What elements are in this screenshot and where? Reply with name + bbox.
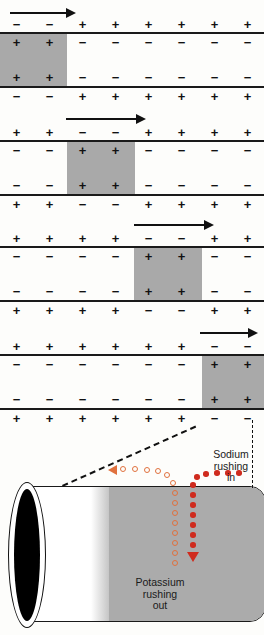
charge-row-outer-bottom-1: −−++++++ bbox=[0, 90, 264, 103]
arrow-shaft bbox=[200, 332, 249, 334]
charge-row-inner-bottom-1: ++−−−−−− bbox=[0, 71, 264, 84]
potassium-rushing-out-label: Potassium rushing out bbox=[118, 577, 202, 612]
charge-sign: + bbox=[66, 232, 99, 245]
potassium-arrow-head bbox=[108, 465, 117, 475]
propagation-arrow-3 bbox=[134, 218, 214, 232]
charge-sign: − bbox=[99, 198, 132, 211]
charge-sign: − bbox=[33, 358, 66, 371]
charge-sign: + bbox=[231, 358, 264, 371]
charge-row-inner-top-2: −−++−−−− bbox=[0, 144, 264, 157]
charge-sign: + bbox=[66, 304, 99, 317]
charge-sign: − bbox=[198, 340, 231, 353]
charge-sign: − bbox=[231, 340, 264, 353]
charge-sign: + bbox=[165, 340, 198, 353]
charge-sign: − bbox=[198, 179, 231, 192]
charge-sign: − bbox=[231, 179, 264, 192]
membrane-2: ++−−++++ −−++−−−− −−++−−−− ++−−++++ bbox=[0, 140, 264, 196]
charge-sign: + bbox=[231, 393, 264, 406]
charge-sign: + bbox=[66, 18, 99, 31]
charge-sign: − bbox=[0, 179, 33, 192]
charge-sign: − bbox=[0, 144, 33, 157]
charge-sign: − bbox=[99, 71, 132, 84]
potassium-ion bbox=[172, 490, 178, 496]
charge-row-outer-bottom-3: ++++−−++ bbox=[0, 304, 264, 317]
sodium-ion bbox=[190, 512, 196, 518]
charge-sign: − bbox=[198, 285, 231, 298]
arrow-shaft bbox=[134, 224, 205, 226]
charge-sign: − bbox=[66, 250, 99, 263]
charge-sign: + bbox=[66, 340, 99, 353]
charge-sign: − bbox=[165, 36, 198, 49]
potassium-ion bbox=[172, 510, 178, 516]
charge-sign: − bbox=[132, 36, 165, 49]
charge-sign: − bbox=[231, 285, 264, 298]
charge-sign: + bbox=[198, 393, 231, 406]
sodium-ion bbox=[190, 522, 196, 528]
charge-row-inner-bottom-3: −−−−++−− bbox=[0, 285, 264, 298]
charge-sign: + bbox=[99, 179, 132, 192]
charge-sign: + bbox=[33, 232, 66, 245]
charge-sign: − bbox=[165, 179, 198, 192]
potassium-ion bbox=[164, 472, 170, 478]
charge-sign: + bbox=[198, 90, 231, 103]
charge-sign: + bbox=[165, 285, 198, 298]
potassium-ion bbox=[144, 467, 150, 473]
charge-sign: − bbox=[0, 90, 33, 103]
charge-sign: − bbox=[66, 358, 99, 371]
charge-sign: − bbox=[99, 285, 132, 298]
sodium-rushing-in-label: Sodium rushing in bbox=[204, 449, 258, 484]
sodium-ion bbox=[190, 532, 196, 538]
charge-sign: + bbox=[0, 71, 33, 84]
charge-sign: − bbox=[165, 393, 198, 406]
charge-sign: − bbox=[33, 250, 66, 263]
charge-sign: + bbox=[0, 340, 33, 353]
charge-row-inner-bottom-2: −−++−−−− bbox=[0, 179, 264, 192]
charge-sign: − bbox=[231, 71, 264, 84]
charge-sign: − bbox=[132, 232, 165, 245]
membrane-outer-line bbox=[0, 354, 264, 356]
sodium-ion bbox=[190, 492, 196, 498]
charge-sign: − bbox=[33, 144, 66, 157]
charge-sign: − bbox=[132, 144, 165, 157]
membrane-inner-line bbox=[0, 86, 264, 88]
charge-sign: + bbox=[132, 340, 165, 353]
charge-sign: − bbox=[165, 232, 198, 245]
charge-sign: − bbox=[66, 71, 99, 84]
sodium-ion bbox=[190, 542, 196, 548]
potassium-ion bbox=[172, 550, 178, 556]
arrow-head bbox=[136, 114, 146, 124]
potassium-label-line-1: Potassium bbox=[118, 577, 202, 589]
membrane-outer-line bbox=[0, 140, 264, 142]
membrane-4: ++++++−− −−−−−−++ −−−−−−++ ++++++−− bbox=[0, 354, 264, 410]
charge-sign: − bbox=[66, 126, 99, 139]
charge-sign: − bbox=[99, 126, 132, 139]
charge-sign: + bbox=[33, 71, 66, 84]
membrane-3: ++++−−++ −−−−++−− −−−−++−− ++++−−++ bbox=[0, 246, 264, 302]
charge-sign: + bbox=[231, 90, 264, 103]
arrow-head bbox=[204, 220, 214, 230]
charge-sign: + bbox=[231, 18, 264, 31]
charge-sign: + bbox=[99, 340, 132, 353]
charge-sign: + bbox=[0, 198, 33, 211]
membrane-outer-line bbox=[0, 246, 264, 248]
potassium-ion bbox=[120, 466, 126, 472]
charge-sign: − bbox=[33, 18, 66, 31]
charge-sign: − bbox=[99, 250, 132, 263]
sodium-ion bbox=[190, 482, 196, 488]
sodium-ion bbox=[190, 502, 196, 508]
charge-row-inner-top-1: ++−−−−−− bbox=[0, 36, 264, 49]
charge-sign: + bbox=[33, 36, 66, 49]
potassium-label-line-3: out bbox=[118, 600, 202, 612]
charge-sign: + bbox=[165, 126, 198, 139]
charge-row-inner-bottom-4: −−−−−−++ bbox=[0, 393, 264, 406]
charge-sign: + bbox=[231, 198, 264, 211]
charge-sign: − bbox=[0, 285, 33, 298]
potassium-ion bbox=[172, 560, 178, 566]
charge-sign: + bbox=[99, 232, 132, 245]
sodium-label-line-3: in bbox=[204, 472, 258, 484]
charge-sign: − bbox=[165, 71, 198, 84]
charge-sign: − bbox=[132, 358, 165, 371]
membrane-inner-line bbox=[0, 194, 264, 196]
sodium-ion bbox=[194, 474, 200, 480]
charge-sign: + bbox=[0, 36, 33, 49]
